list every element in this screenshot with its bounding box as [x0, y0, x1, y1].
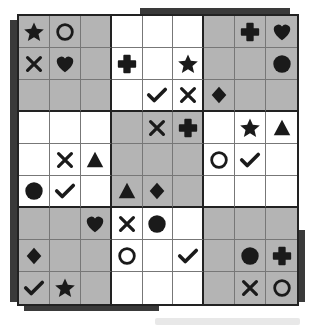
cell-r7-c4[interactable]: [112, 208, 143, 240]
cell-r2-c7[interactable]: [204, 48, 235, 80]
cell-r5-c4[interactable]: [112, 144, 143, 176]
cell-r4-c1[interactable]: [19, 112, 50, 144]
plus-icon: [177, 117, 199, 139]
cross-icon: [177, 84, 199, 106]
cell-r2-c5[interactable]: [143, 48, 174, 80]
cell-r8-c4[interactable]: [112, 240, 143, 272]
star-icon: [23, 21, 45, 43]
cell-r1-c8[interactable]: [235, 16, 266, 48]
cell-r3-c8[interactable]: [235, 80, 266, 112]
cell-r6-c7[interactable]: [204, 176, 235, 208]
cell-r3-c9[interactable]: [266, 80, 297, 112]
cell-r7-c9[interactable]: [266, 208, 297, 240]
cell-r7-c8[interactable]: [235, 208, 266, 240]
cell-r4-c7[interactable]: [204, 112, 235, 144]
cell-r6-c1[interactable]: [19, 176, 50, 208]
cell-r3-c1[interactable]: [19, 80, 50, 112]
cell-r3-c7[interactable]: [204, 80, 235, 112]
cell-r8-c8[interactable]: [235, 240, 266, 272]
cell-r7-c6[interactable]: [173, 208, 204, 240]
cell-r1-c5[interactable]: [143, 16, 174, 48]
circle-icon: [54, 21, 76, 43]
plus-icon: [116, 53, 138, 75]
cell-r1-c7[interactable]: [204, 16, 235, 48]
cell-r9-c1[interactable]: [19, 272, 50, 304]
cell-r2-c2[interactable]: [50, 48, 81, 80]
cell-r7-c5[interactable]: [143, 208, 174, 240]
star-icon: [239, 117, 261, 139]
diamond-icon: [146, 180, 168, 202]
cell-r2-c3[interactable]: [81, 48, 112, 80]
heart-icon: [84, 213, 106, 235]
cell-r3-c3[interactable]: [81, 80, 112, 112]
cell-r9-c2[interactable]: [50, 272, 81, 304]
cell-r2-c4[interactable]: [112, 48, 143, 80]
cell-r3-c2[interactable]: [50, 80, 81, 112]
cell-r4-c5[interactable]: [143, 112, 174, 144]
cell-r8-c5[interactable]: [143, 240, 174, 272]
cross-icon: [146, 117, 168, 139]
cell-r9-c8[interactable]: [235, 272, 266, 304]
cell-r9-c4[interactable]: [112, 272, 143, 304]
cell-r3-c5[interactable]: [143, 80, 174, 112]
cell-r7-c3[interactable]: [81, 208, 112, 240]
cell-r8-c6[interactable]: [173, 240, 204, 272]
cell-r6-c2[interactable]: [50, 176, 81, 208]
cell-r5-c6[interactable]: [173, 144, 204, 176]
cell-r3-c4[interactable]: [112, 80, 143, 112]
cell-r5-c1[interactable]: [19, 144, 50, 176]
cell-r1-c2[interactable]: [50, 16, 81, 48]
cell-r4-c6[interactable]: [173, 112, 204, 144]
cell-r5-c2[interactable]: [50, 144, 81, 176]
cell-r9-c9[interactable]: [266, 272, 297, 304]
dot-icon: [271, 53, 293, 75]
cell-r1-c3[interactable]: [81, 16, 112, 48]
cell-r5-c3[interactable]: [81, 144, 112, 176]
cell-r6-c4[interactable]: [112, 176, 143, 208]
triangle-icon: [84, 149, 106, 171]
cell-r5-c8[interactable]: [235, 144, 266, 176]
cell-r8-c3[interactable]: [81, 240, 112, 272]
cell-r6-c5[interactable]: [143, 176, 174, 208]
cell-r8-c7[interactable]: [204, 240, 235, 272]
cell-r4-c3[interactable]: [81, 112, 112, 144]
plus-icon: [239, 21, 261, 43]
cell-r8-c1[interactable]: [19, 240, 50, 272]
star-icon: [54, 277, 76, 299]
cell-r1-c6[interactable]: [173, 16, 204, 48]
cell-r4-c4[interactable]: [112, 112, 143, 144]
cell-r2-c6[interactable]: [173, 48, 204, 80]
cell-r4-c9[interactable]: [266, 112, 297, 144]
cell-r9-c6[interactable]: [173, 272, 204, 304]
check-icon: [23, 277, 45, 299]
cell-r3-c6[interactable]: [173, 80, 204, 112]
cell-r2-c8[interactable]: [235, 48, 266, 80]
cell-r7-c2[interactable]: [50, 208, 81, 240]
cell-r1-c4[interactable]: [112, 16, 143, 48]
cell-r8-c9[interactable]: [266, 240, 297, 272]
cell-r7-c1[interactable]: [19, 208, 50, 240]
dot-icon: [23, 180, 45, 202]
cell-r6-c8[interactable]: [235, 176, 266, 208]
cross-icon: [54, 149, 76, 171]
cell-r6-c9[interactable]: [266, 176, 297, 208]
cell-r4-c2[interactable]: [50, 112, 81, 144]
cell-r4-c8[interactable]: [235, 112, 266, 144]
cell-r5-c7[interactable]: [204, 144, 235, 176]
dot-icon: [146, 213, 168, 235]
cell-r2-c9[interactable]: [266, 48, 297, 80]
cell-r5-c5[interactable]: [143, 144, 174, 176]
cell-r1-c9[interactable]: [266, 16, 297, 48]
cell-r1-c1[interactable]: [19, 16, 50, 48]
cell-r7-c7[interactable]: [204, 208, 235, 240]
cell-r5-c9[interactable]: [266, 144, 297, 176]
cell-r6-c3[interactable]: [81, 176, 112, 208]
cell-r9-c3[interactable]: [81, 272, 112, 304]
cell-r6-c6[interactable]: [173, 176, 204, 208]
star-icon: [177, 53, 199, 75]
cell-r9-c5[interactable]: [143, 272, 174, 304]
cell-r9-c7[interactable]: [204, 272, 235, 304]
cell-r2-c1[interactable]: [19, 48, 50, 80]
heart-icon: [54, 53, 76, 75]
cell-r8-c2[interactable]: [50, 240, 81, 272]
